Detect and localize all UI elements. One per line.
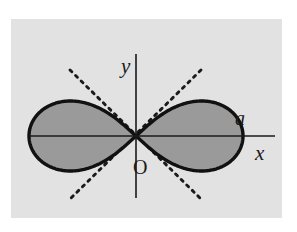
- figure-container: y x a O: [0, 0, 297, 232]
- y-axis-label: y: [119, 54, 131, 78]
- origin-label: O: [133, 156, 147, 178]
- parameter-a-label: a: [235, 107, 245, 129]
- lemniscate-figure: y x a O: [0, 0, 297, 232]
- x-axis-label: x: [254, 141, 265, 165]
